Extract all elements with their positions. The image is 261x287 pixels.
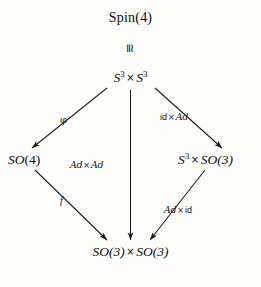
node-left-label: SO <box>8 152 25 167</box>
node-right-right-factor: SO(3) <box>201 152 233 167</box>
node-s3-cross-s3: S3×S3 <box>0 71 261 85</box>
node-bottom-right-factor: SO(3) <box>136 244 168 259</box>
arrow-label-id-cross-ad: id×Ad <box>160 112 188 122</box>
arrow-left-to-bottom <box>35 170 107 240</box>
congruence-icon: ≅ <box>125 43 137 53</box>
product-operator: × <box>125 72 136 83</box>
diagram-canvas: Spin(4) ≅ S3×S3 SO(4) S3×SO(3) SO(3)×SO(… <box>0 0 261 287</box>
product-operator: × <box>82 161 91 170</box>
arrow-label-ad-cross-id: Ad×id <box>164 205 192 215</box>
adjoint-map-label: Ad <box>164 204 176 215</box>
diagram-title: Spin(4) <box>0 11 261 25</box>
adjoint-map-label: Ad <box>176 111 188 122</box>
arrow-top-to-left <box>32 88 107 148</box>
node-top-right-factor: S <box>136 70 143 85</box>
isomorphism-symbol: ≅ <box>0 41 261 54</box>
node-so3-cross-so3: SO(3)×SO(3) <box>0 245 261 259</box>
adjoint-map-label-right: Ad <box>91 159 103 170</box>
node-bottom-left-factor: SO(3) <box>93 244 125 259</box>
arrow-label-f: f <box>60 196 63 206</box>
arrow-label-phi: φ <box>60 115 67 125</box>
arrow-label-ad-cross-ad: Ad×Ad <box>70 160 103 170</box>
product-operator: × <box>176 206 185 215</box>
identity-map-label: id <box>160 112 167 122</box>
node-s3-cross-so3: S3×SO(3) <box>178 153 233 167</box>
product-operator: × <box>125 246 136 257</box>
adjoint-map-label-left: Ad <box>70 159 82 170</box>
node-left-arg: (4) <box>25 152 41 167</box>
node-top-right-exponent: 3 <box>143 69 148 79</box>
node-right-left-factor: S <box>178 152 185 167</box>
node-so4: SO(4) <box>8 153 40 167</box>
identity-map-label: id <box>185 205 192 215</box>
product-operator: × <box>189 154 200 165</box>
product-operator: × <box>167 113 176 122</box>
